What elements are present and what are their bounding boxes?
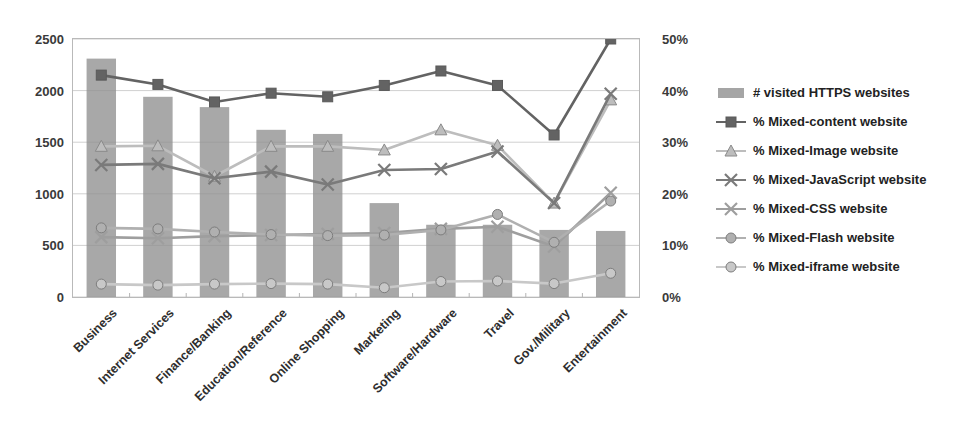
line-series [95,187,616,253]
legend-line-swatch-icon [716,260,746,274]
y-axis-right: 0%10%20%30%40%50% [648,38,708,298]
legend-item-label: % Mixed-JavaScript website [753,172,926,187]
x-axis-labels: BusinessInternet ServicesFinance/Banking… [72,300,640,420]
x-axis-label: Gov./Military [511,306,573,368]
legend-item-label: % Mixed-Image website [753,143,898,158]
legend-marker-icon [724,260,738,274]
y-axis-left-tick: 500 [8,238,64,253]
chart-container: 05001000150020002500 0%10%20%30%40%50% B… [0,0,954,425]
y-axis-right-tick: 30% [662,135,688,150]
legend-marker-icon [724,144,738,158]
legend-marker-icon [724,115,738,129]
chart-svg [73,39,639,297]
legend-item[interactable]: % Mixed-CSS website [716,194,954,223]
legend-item[interactable]: % Mixed-iframe website [716,252,954,281]
bar [143,97,172,297]
legend-line-swatch-icon [716,231,746,245]
legend-line-swatch-icon [716,173,746,187]
legend-item-label: # visited HTTPS websites [753,85,910,100]
legend-marker-icon [724,231,738,245]
legend-item[interactable]: % Mixed-Flash website [716,223,954,252]
legend-item[interactable]: % Mixed-content website [716,107,954,136]
legend-item[interactable]: % Mixed-JavaScript website [716,165,954,194]
plot-area [72,38,640,298]
y-axis-left-tick: 1500 [8,135,64,150]
chart-legend: # visited HTTPS websites% Mixed-content … [716,78,954,281]
bar [87,59,116,297]
legend-line-swatch-icon [716,202,746,216]
x-axis-label: Business [71,306,120,355]
legend-line-swatch-icon [716,144,746,158]
y-axis-left-tick: 2000 [8,83,64,98]
y-axis-right-tick: 20% [662,186,688,201]
x-axis-label: Travel [481,306,516,341]
y-axis-left-tick: 0 [8,290,64,305]
legend-item-label: % Mixed-CSS website [753,201,887,216]
bar [313,134,342,297]
x-axis-label: Education/Reference [192,306,290,404]
y-axis-left-tick: 2500 [8,32,64,47]
bar [256,130,285,297]
x-axis-label: Marketing [352,306,404,358]
legend-marker-icon [724,202,738,216]
y-axis-right-tick: 0% [662,290,681,305]
bar [200,107,229,297]
y-axis-right-tick: 40% [662,83,688,98]
legend-marker-icon [724,173,738,187]
y-axis-left-tick: 1000 [8,186,64,201]
y-axis-left: 05001000150020002500 [0,38,64,298]
legend-item-label: % Mixed-content website [753,114,908,129]
line-series [96,39,615,140]
legend-line-swatch-icon [716,115,746,129]
legend-item[interactable]: % Mixed-Image website [716,136,954,165]
line-series [95,94,616,208]
legend-item-label: % Mixed-Flash website [753,230,895,245]
bar [596,231,625,297]
legend-bar-swatch-icon [716,86,746,100]
line-series [96,268,615,292]
legend-item-label: % Mixed-iframe website [753,259,900,274]
legend-item[interactable]: # visited HTTPS websites [716,78,954,107]
y-axis-right-tick: 50% [662,32,688,47]
y-axis-right-tick: 10% [662,238,688,253]
